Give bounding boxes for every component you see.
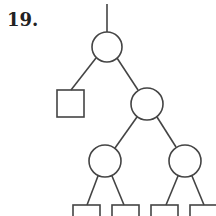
edge-gc-right-leaf-3 (166, 176, 178, 205)
leaf-square-left (57, 90, 84, 117)
gc-right-circle-node (169, 145, 201, 177)
mid-right-circle-node (131, 88, 163, 120)
edge-gc-left-leaf-1 (87, 176, 98, 205)
edge-mid-gc-left (115, 117, 137, 148)
gc-left-circle-node (89, 145, 121, 177)
root-circle-node (92, 32, 122, 62)
tree-diagram (0, 0, 216, 216)
leaf-square-4 (190, 205, 216, 216)
edge-gc-right-leaf-4 (192, 176, 204, 205)
leaf-square-3 (151, 205, 178, 216)
edge-gc-left-leaf-2 (112, 176, 124, 205)
leaf-square-1 (73, 205, 100, 216)
edge-root-leaf-left (71, 58, 96, 90)
edge-root-mid-right (117, 58, 138, 90)
leaf-square-2 (112, 205, 139, 216)
edge-mid-gc-right (157, 117, 176, 147)
